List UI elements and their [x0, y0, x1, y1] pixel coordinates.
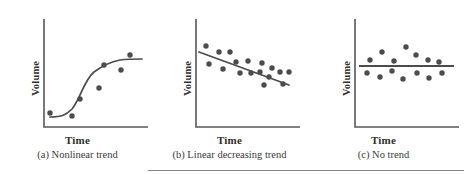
- panel-caption-a: (a) Nonlinear trend: [0, 148, 155, 161]
- data-point: [248, 70, 253, 75]
- figure-container: Volume Time (a) Nonlinear trend: [0, 0, 464, 174]
- data-point: [286, 69, 291, 74]
- data-point: [69, 113, 74, 118]
- axis-lines-a: [44, 19, 148, 127]
- axis-label-y-a: Volume: [30, 61, 41, 96]
- axis-label-x-a: Time: [0, 134, 155, 147]
- plot-area-b: Volume: [152, 0, 307, 132]
- data-point: [426, 75, 431, 80]
- chart-svg-a: [0, 0, 155, 132]
- caption-block-b: Time (b) Linear decreasing trend: [152, 134, 307, 161]
- panel-caption-b: (b) Linear decreasing trend: [152, 148, 307, 161]
- data-point: [77, 96, 82, 101]
- trend-line-b: [199, 52, 289, 85]
- data-point: [101, 62, 106, 67]
- data-point: [127, 52, 132, 57]
- data-point: [269, 65, 274, 70]
- data-point: [413, 52, 418, 57]
- axis-label-x-c: Time: [306, 134, 461, 147]
- page-divider-rule: [148, 170, 464, 171]
- data-point: [400, 76, 405, 81]
- data-point: [257, 69, 262, 74]
- panel-caption-c: (c) No trend: [306, 148, 461, 161]
- data-point: [261, 82, 266, 87]
- panel-nonlinear-trend: Volume Time (a) Nonlinear trend: [0, 0, 155, 174]
- panel-no-trend: Volume Time (c) No trend: [306, 0, 461, 174]
- data-points-c: [364, 44, 444, 81]
- data-point: [436, 59, 441, 64]
- data-point: [216, 49, 221, 54]
- trend-curve-a: [50, 59, 142, 117]
- data-point: [280, 81, 285, 86]
- data-point: [389, 68, 394, 73]
- data-point: [414, 70, 419, 75]
- data-point: [425, 57, 430, 62]
- data-point: [118, 67, 123, 72]
- chart-svg-c: [306, 0, 461, 132]
- chart-svg-b: [152, 0, 307, 132]
- plot-area-c: Volume: [306, 0, 461, 132]
- plot-area-a: Volume: [0, 0, 155, 132]
- panel-linear-decreasing-trend: Volume Time (b) Linear decreasing trend: [152, 0, 307, 174]
- data-point: [227, 49, 232, 54]
- axis-label-x-b: Time: [152, 134, 307, 147]
- data-point: [233, 59, 238, 64]
- data-point: [47, 110, 52, 115]
- data-point: [96, 85, 101, 90]
- axis-lines-b: [196, 19, 300, 127]
- data-point: [377, 74, 382, 79]
- caption-block-c: Time (c) No trend: [306, 134, 461, 161]
- data-point: [367, 57, 372, 62]
- data-point: [391, 58, 396, 63]
- data-points-a: [47, 52, 132, 118]
- data-point: [277, 69, 282, 74]
- data-point: [206, 61, 211, 66]
- data-point: [203, 43, 208, 48]
- caption-block-a: Time (a) Nonlinear trend: [0, 134, 155, 161]
- axis-label-y-c: Volume: [341, 61, 352, 96]
- data-point: [403, 44, 408, 49]
- data-point: [439, 70, 444, 75]
- data-point: [379, 49, 384, 54]
- data-point: [237, 70, 242, 75]
- data-point: [259, 60, 264, 65]
- data-point: [220, 66, 225, 71]
- data-point: [266, 74, 271, 79]
- data-point: [364, 70, 369, 75]
- axis-label-y-b: Volume: [182, 61, 193, 96]
- data-point: [245, 58, 250, 63]
